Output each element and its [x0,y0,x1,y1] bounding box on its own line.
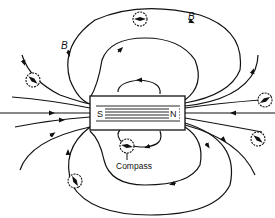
bar-magnet-field-diagram: S N Compass B B [0,0,275,218]
field-line-lower-left [20,127,90,170]
north-pole-label: N [170,109,177,119]
bar-magnet: S N [90,96,185,130]
compass-left [23,70,43,90]
field-line-top-inner [118,80,160,94]
compass-label: Compass [116,161,152,171]
field-label-b-top: B [188,11,195,22]
field-line-lower-right [185,125,255,175]
compass-right-upper [255,90,274,109]
compass-bottom [120,139,134,153]
compass-bottom-left [65,171,84,190]
field-line-right-2 [185,118,262,132]
field-label-b-left: B [61,40,68,51]
compass-top [133,12,147,26]
field-line-left-1 [12,97,90,108]
south-pole-label: S [97,109,103,119]
compass-right-lower [248,129,268,149]
field-line-top-middle [90,38,198,100]
field-line-left-2 [15,117,90,127]
field-line-bottom-middle [90,127,201,185]
